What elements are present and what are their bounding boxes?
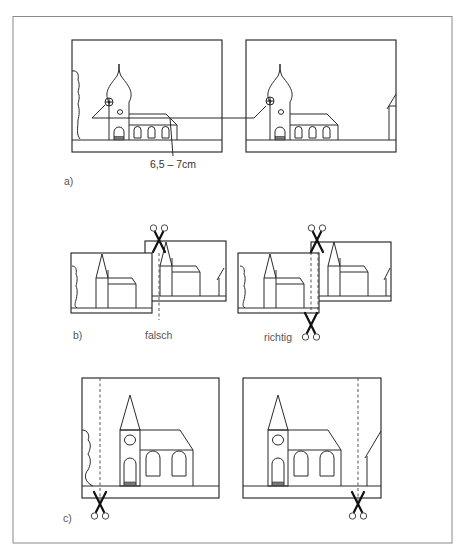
panel-c-photo-right bbox=[243, 378, 381, 519]
scissors-icon bbox=[302, 313, 319, 340]
panel-a: 6,5 – 7cm a) bbox=[64, 40, 396, 187]
panel-b-wrong-example: falsch bbox=[71, 225, 226, 341]
panel-a-label: a) bbox=[64, 175, 73, 187]
panel-c-photo-left bbox=[82, 378, 219, 519]
panel-a-photo-right bbox=[246, 40, 396, 152]
wrong-label: falsch bbox=[145, 329, 173, 341]
correct-label: richtig bbox=[264, 331, 292, 343]
panel-a-photo-left bbox=[72, 40, 222, 152]
panorama-cutting-diagram: 6,5 – 7cm a) falsch b) bbox=[0, 0, 465, 559]
panel-c-label: c) bbox=[63, 512, 72, 524]
panel-c: c) bbox=[63, 378, 381, 524]
clock-icon bbox=[105, 98, 113, 106]
measurement-label: 6,5 – 7cm bbox=[150, 158, 196, 170]
panel-b-correct-example: richtig bbox=[238, 225, 391, 343]
panel-b: falsch b) richtig bbox=[71, 225, 391, 343]
panel-b-label: b) bbox=[73, 329, 82, 341]
clock-icon bbox=[266, 97, 274, 105]
